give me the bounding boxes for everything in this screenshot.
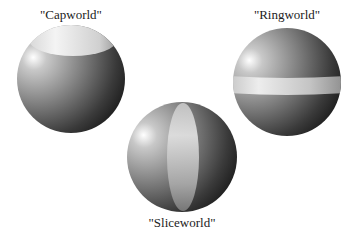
sliceworld-slice <box>167 103 199 211</box>
capworld-group: "Capworld" <box>17 7 125 133</box>
capworld-label: "Capworld" <box>40 7 102 22</box>
ringworld-ring <box>230 76 344 95</box>
sliceworld-group: "Sliceworld" <box>127 102 237 230</box>
capworld-cap <box>29 24 117 56</box>
ringworld-label: "Ringworld" <box>254 7 320 22</box>
ringworld-group: "Ringworld" <box>230 7 344 136</box>
sliceworld-label: "Sliceworld" <box>149 215 216 230</box>
worlds-diagram: "Capworld" "Ringworld" "Sliceworld" <box>0 0 357 232</box>
